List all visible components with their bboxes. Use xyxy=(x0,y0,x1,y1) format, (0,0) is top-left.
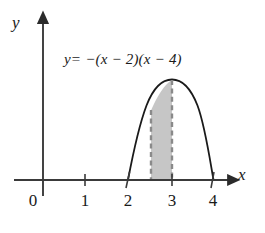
x-tick-label-4: 4 xyxy=(204,192,222,209)
x-axis-label: x xyxy=(238,166,246,183)
x-tick-label-2: 2 xyxy=(119,192,137,209)
shaded-area-region xyxy=(151,80,172,180)
math-figure: y= −(x − 2)(x − 4) y x 0 1 2 3 4 xyxy=(0,0,265,233)
x-tick-label-1: 1 xyxy=(76,192,94,209)
x-tick-label-3: 3 xyxy=(163,192,181,209)
equation-annotation: y= −(x − 2)(x − 4) xyxy=(64,51,182,68)
x-tick-label-0: 0 xyxy=(24,192,42,209)
y-axis-label: y xyxy=(12,14,20,31)
